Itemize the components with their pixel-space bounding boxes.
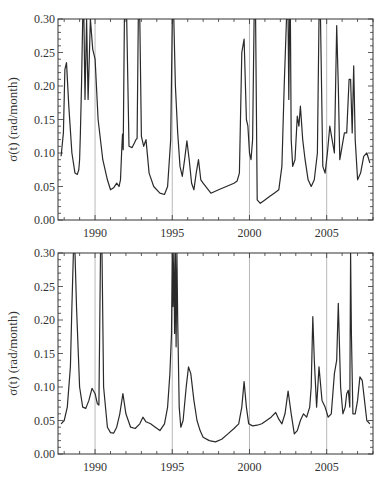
bottom-chart-panel: 0.000.050.100.150.200.250.30199019952000… [0, 234, 390, 479]
y-tick-label: 0.15 [34, 113, 55, 127]
top-chart-panel: 0.000.050.100.150.200.250.30199019952000… [0, 0, 390, 240]
x-tick-label: 2005 [315, 460, 339, 474]
y-tick-label: 0.30 [34, 246, 55, 260]
y-tick-label: 0.15 [34, 347, 55, 361]
y-tick-label: 0.20 [34, 79, 55, 93]
plot-frame [58, 253, 373, 454]
y-tick-label: 0.00 [34, 447, 55, 461]
y-tick-label: 0.05 [34, 414, 55, 428]
x-tick-label: 1990 [83, 460, 107, 474]
sigma-line [61, 19, 370, 203]
plot-frame [58, 19, 373, 220]
x-tick-label: 1995 [160, 460, 184, 474]
sigma-line [61, 253, 370, 442]
y-tick-label: 0.10 [34, 380, 55, 394]
y-axis-label: σ(t) (rad/month) [5, 311, 20, 396]
y-tick-label: 0.00 [34, 213, 55, 227]
bottom-line-chart: 0.000.050.100.150.200.250.30199019952000… [0, 234, 390, 479]
y-axis-label: σ(t) (rad/month) [5, 77, 20, 162]
y-tick-label: 0.25 [34, 280, 55, 294]
y-tick-label: 0.10 [34, 146, 55, 160]
top-line-chart: 0.000.050.100.150.200.250.30199019952000… [0, 0, 390, 240]
y-tick-label: 0.05 [34, 180, 55, 194]
y-tick-label: 0.30 [34, 12, 55, 26]
y-tick-label: 0.20 [34, 313, 55, 327]
x-tick-label: 2000 [237, 460, 261, 474]
y-tick-label: 0.25 [34, 46, 55, 60]
